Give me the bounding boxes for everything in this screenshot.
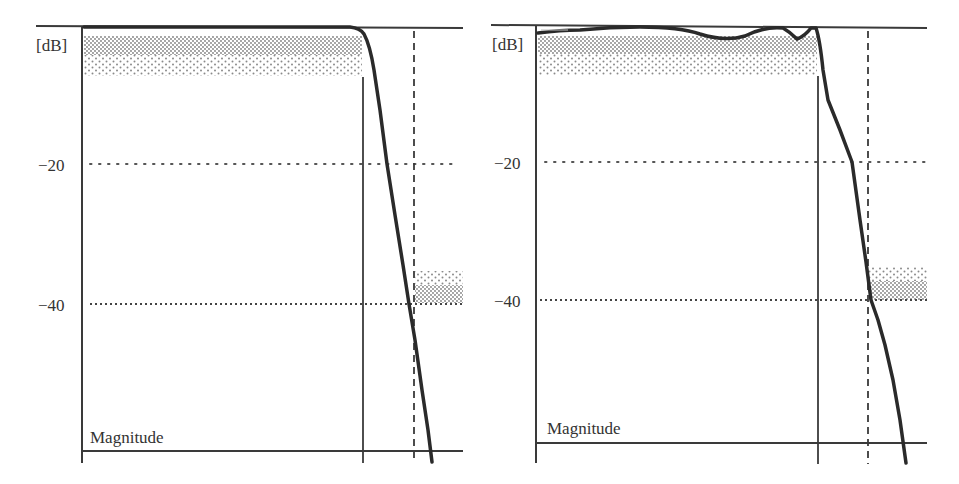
ytick-minus20: −20 [494,154,521,173]
ytick-minus20: −20 [38,156,65,175]
passband-tolerance-region [538,36,817,75]
ytick-minus40: −40 [494,292,521,311]
passband-tolerance-region [84,36,362,76]
unit-label: [dB] [492,35,523,54]
magnitude-label: Magnitude [90,428,164,447]
zero-db-line [491,25,927,28]
stopband-tolerance-region [415,271,463,303]
magnitude-label: Magnitude [547,419,621,438]
stopband-tolerance-region [869,267,927,300]
figure: [dB] −20 −40 Magnitude [0,0,959,484]
magnitude-curve [538,27,906,463]
left-chart: [dB] −20 −40 Magnitude [36,26,463,463]
unit-label: [dB] [36,36,67,55]
ytick-minus40: −40 [38,296,65,315]
magnitude-curve [84,27,432,462]
right-chart: [dB] −20 −40 Magnitude [491,25,927,464]
